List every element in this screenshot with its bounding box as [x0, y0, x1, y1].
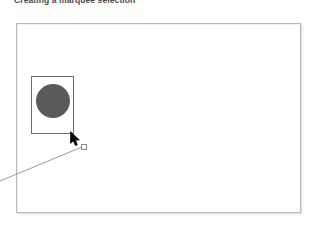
mouse-cursor-arrow-icon — [70, 131, 81, 147]
selected-circle-object[interactable] — [36, 84, 70, 118]
figure-caption: Creating a marquee selection — [14, 0, 135, 5]
screenshot-root: Creating a marquee selection — [0, 0, 319, 232]
marquee-drag-handle[interactable] — [81, 144, 87, 150]
